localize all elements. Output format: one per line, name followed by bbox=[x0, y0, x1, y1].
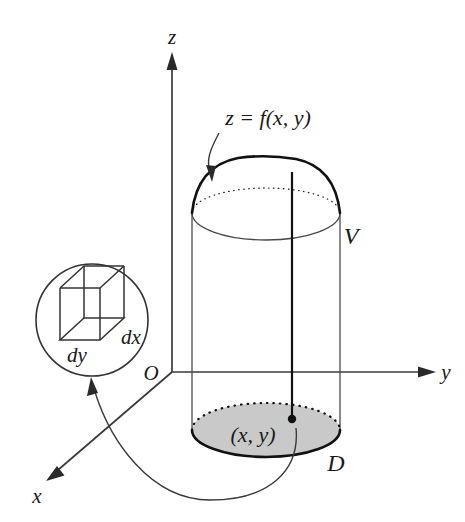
top-rim-front-arc bbox=[192, 213, 340, 240]
y-axis-label: y bbox=[439, 360, 451, 384]
origin-label: O bbox=[143, 361, 158, 385]
x-axis-label: x bbox=[31, 484, 42, 508]
z-axis-arrowhead bbox=[167, 52, 178, 70]
magnifier-circle bbox=[36, 264, 148, 376]
y-axis-arrowhead bbox=[418, 367, 436, 378]
solid-region-v: (x, y) V D bbox=[192, 156, 361, 476]
dx-label: dx bbox=[121, 325, 142, 349]
surface-dome-edge bbox=[192, 156, 340, 213]
x-axis-arrowhead bbox=[46, 466, 65, 481]
top-rim-back-dotted bbox=[192, 188, 340, 213]
z-axis-label: z bbox=[167, 25, 176, 49]
volume-integral-diagram: O z y x (x, y) V D z = f(x, y) bbox=[0, 0, 465, 522]
region-label-d: D bbox=[326, 450, 344, 476]
solid-label-v: V bbox=[344, 223, 361, 249]
dy-label: dy bbox=[67, 343, 88, 367]
surface-callout: z = f(x, y) bbox=[206, 105, 311, 182]
magnifier-pointer-arrowhead bbox=[87, 377, 98, 396]
point-label: (x, y) bbox=[230, 422, 275, 447]
surface-equation-label: z = f(x, y) bbox=[224, 105, 311, 130]
x-axis-line bbox=[58, 372, 172, 470]
sample-point-dot bbox=[288, 415, 296, 423]
magnifier-callout: dy dx bbox=[36, 264, 296, 500]
